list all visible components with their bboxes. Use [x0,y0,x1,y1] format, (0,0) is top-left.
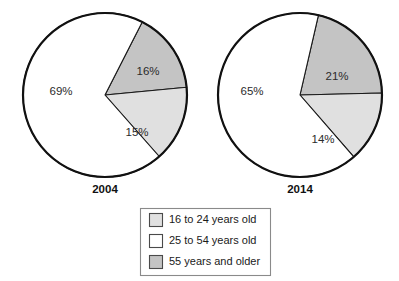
pie-chart-2014: 21%14%65% 2014 [218,13,382,195]
legend-swatch [150,235,163,248]
pie-year-label-2014: 2014 [287,183,313,195]
pie-slice-value-label: 16% [136,65,159,77]
legend: 16 to 24 years old25 to 54 years old55 y… [141,209,271,276]
legend-swatch [150,256,163,269]
pie-slice-value-label: 65% [240,85,263,97]
legend-label: 16 to 24 years old [169,213,256,225]
legend-label: 25 to 54 years old [169,234,256,246]
pie-chart-figure: 16%15%69% 2004 21%14%65% 2014 16 to 24 y… [0,0,399,281]
pie-slice-value-label: 14% [311,133,334,145]
pie-year-label-2004: 2004 [92,183,118,195]
legend-label: 55 years and older [169,255,260,267]
pie-slice-value-label: 21% [325,70,348,82]
legend-swatch [150,214,163,227]
pie-slice-value-label: 69% [49,85,72,97]
pie-slice-value-label: 15% [125,126,148,138]
pie-chart-2004: 16%15%69% 2004 [23,13,187,195]
